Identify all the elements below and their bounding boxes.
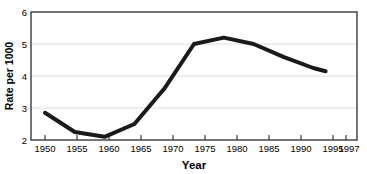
x-tick-labels: 1950 1955 1960 1965 1970 1975 1980 1985 …	[34, 143, 359, 154]
xtick-label-1965: 1965	[130, 143, 151, 154]
xtick-label-1975: 1975	[194, 143, 215, 154]
x-axis-title: Year	[182, 159, 207, 171]
xtick-label-1960: 1960	[98, 143, 119, 154]
xtick-label-1970: 1970	[162, 143, 183, 154]
ytick-label-2: 2	[22, 135, 27, 146]
xtick-label-1955: 1955	[66, 143, 87, 154]
chart-canvas: 6 5 4 3 2 1950 1955 1960 1965 1970 1975 …	[0, 0, 367, 174]
ytick-label-3: 3	[22, 103, 27, 114]
ytick-label-6: 6	[22, 7, 27, 18]
xtick-label-1980: 1980	[226, 143, 247, 154]
xtick-label-1950: 1950	[34, 143, 55, 154]
xtick-label-1990: 1990	[290, 143, 311, 154]
ytick-label-5: 5	[22, 39, 27, 50]
ytick-label-4: 4	[22, 71, 27, 82]
line-chart-figure: 6 5 4 3 2 1950 1955 1960 1965 1970 1975 …	[0, 0, 367, 174]
xtick-label-1985: 1985	[258, 143, 279, 154]
y-axis-title: Rate per 1000	[3, 42, 15, 110]
xtick-label-1997: 1997	[338, 143, 359, 154]
